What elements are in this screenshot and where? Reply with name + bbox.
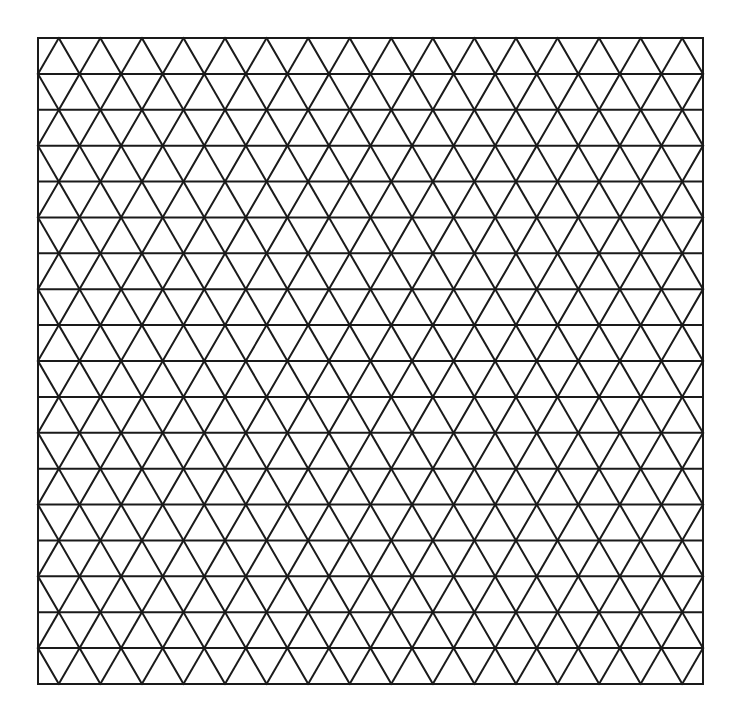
grid-line [599,289,620,325]
grid-line [225,540,246,576]
grid-line [287,182,308,218]
grid-line [661,74,682,110]
grid-line [433,576,454,612]
grid-line [225,397,246,433]
grid-line [38,146,59,182]
grid-line [558,361,579,397]
grid-line [516,146,537,182]
grid-line [287,110,308,146]
grid-line [121,74,142,110]
grid-line [433,505,454,541]
grid-line [495,289,516,325]
grid-line [516,505,537,541]
grid-line [121,397,142,433]
grid-line [578,74,599,110]
grid-line [38,253,59,289]
grid-line [287,540,308,576]
grid-line [516,182,537,218]
grid-line [142,74,163,110]
grid-line [204,110,225,146]
grid-line [329,576,350,612]
grid-line [329,397,350,433]
grid-line [558,38,579,74]
grid-line [225,38,246,74]
grid-line [495,38,516,74]
grid-line [225,217,246,253]
grid-line [599,397,620,433]
grid-line [641,38,662,74]
grid-line [558,217,579,253]
grid-line [620,433,641,469]
grid-line [350,182,371,218]
grid-line [516,110,537,146]
grid-line [246,38,267,74]
grid-line [308,648,329,684]
grid-line [433,253,454,289]
triangular-grid-diagram [0,0,741,719]
grid-line [329,217,350,253]
grid-line [163,253,184,289]
grid-line [183,182,204,218]
grid-line [371,648,392,684]
grid-line [391,74,412,110]
grid-line [100,110,121,146]
grid-line [183,289,204,325]
grid-line [620,397,641,433]
grid-line [38,289,59,325]
grid-line [308,540,329,576]
grid-line [578,217,599,253]
grid-line [121,469,142,505]
grid-line [59,469,80,505]
grid-line [433,182,454,218]
grid-line [246,74,267,110]
grid-line [38,182,59,218]
grid-line [495,110,516,146]
grid-line [474,648,495,684]
grid-line [142,325,163,361]
grid-line [142,253,163,289]
grid-line [287,325,308,361]
grid-line [558,648,579,684]
grid-line [267,253,288,289]
grid-line [163,325,184,361]
grid-line [142,612,163,648]
grid-line [620,325,641,361]
grid-line [287,433,308,469]
grid-line [516,38,537,74]
grid-line [225,505,246,541]
grid-line [371,505,392,541]
grid-line [620,540,641,576]
grid-line [412,217,433,253]
grid-line [661,253,682,289]
grid-line [80,38,101,74]
grid-line [308,505,329,541]
grid-line [225,433,246,469]
grid-line [516,540,537,576]
grid-line [641,612,662,648]
grid-line [121,505,142,541]
grid-line [661,469,682,505]
grid-line [100,397,121,433]
grid-line [350,540,371,576]
grid-line [163,612,184,648]
grid-line [38,576,59,612]
grid-line [287,146,308,182]
grid-line [391,433,412,469]
grid-line [246,253,267,289]
grid-line [454,146,475,182]
grid-line [620,289,641,325]
grid-line [433,146,454,182]
grid-line [599,110,620,146]
grid-line [59,182,80,218]
grid-line [537,289,558,325]
grid-line [474,397,495,433]
grid-line [183,253,204,289]
grid-line [121,612,142,648]
grid-line [412,433,433,469]
grid-line [204,289,225,325]
grid-line [59,110,80,146]
grid-line [350,38,371,74]
grid-line [287,612,308,648]
grid-line [329,74,350,110]
grid-line [599,253,620,289]
